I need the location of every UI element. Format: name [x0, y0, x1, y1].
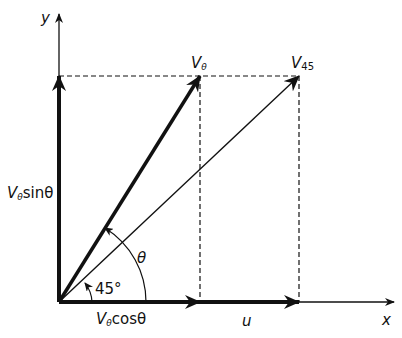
v45-label: V45: [291, 54, 314, 72]
v-theta-label: Vθ: [191, 54, 207, 72]
y-axis-label: y: [40, 9, 51, 27]
x-axis-label: x: [381, 311, 391, 329]
diagram-canvas: y x Vθ V45 Vθsinθ Vθcosθ u θ 45°: [0, 0, 402, 338]
angle-45-label: 45°: [95, 280, 122, 298]
vector-diagram: y x Vθ V45 Vθsinθ Vθcosθ u θ 45°: [0, 0, 402, 338]
u-label: u: [242, 312, 252, 330]
angle-45-arc: [85, 283, 92, 302]
horizontal-component-label: Vθcosθ: [96, 310, 146, 328]
theta-angle-label: θ: [137, 249, 146, 267]
vertical-component-label: Vθsinθ: [7, 184, 53, 202]
